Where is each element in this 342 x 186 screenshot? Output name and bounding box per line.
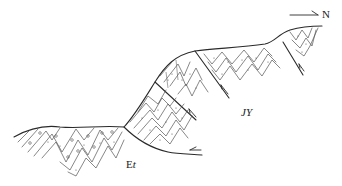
jy-folded-strata-block-1 [130,90,192,144]
geological-cross-section [0,0,342,186]
et-folded-strata [18,128,124,176]
fault-movement-arrow-icon [189,109,196,117]
formation-label-et: Et [126,158,136,170]
jy-folded-strata-block-4 [290,28,318,56]
north-arrow-icon [290,11,318,15]
topographic-surface [14,26,322,137]
north-label: N [322,8,330,20]
thrust-fault-3 [283,42,303,75]
jy-folded-strata-block-3 [204,48,280,80]
formation-label-et-suffix: t [133,158,136,170]
formation-label-jy: JY [241,106,252,118]
formation-label-jy-text: JY [241,106,252,118]
fault-movement-arrow-icon [190,147,201,150]
formation-label-et-prefix: E [126,158,133,170]
basal-thrust-fault [124,127,202,155]
